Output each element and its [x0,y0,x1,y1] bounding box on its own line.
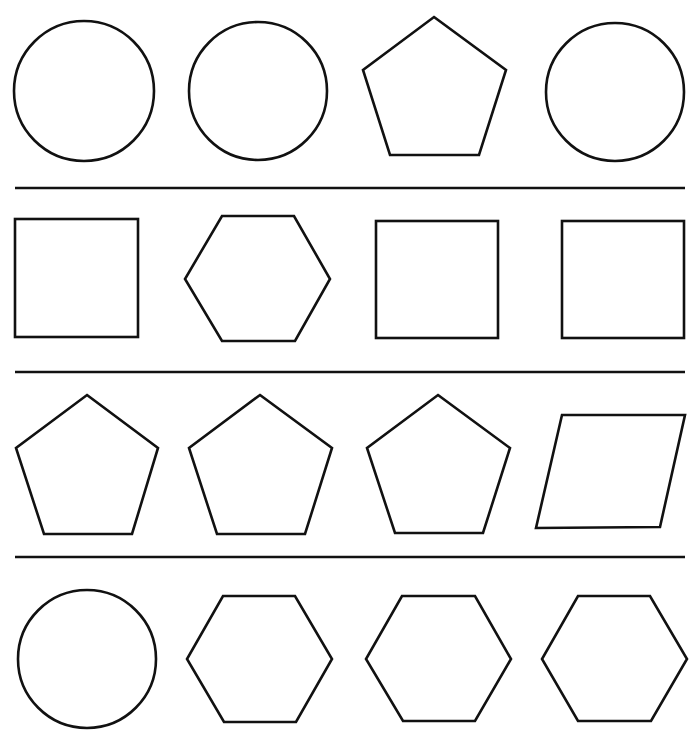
shapes-worksheet [0,0,693,737]
circle-shape [18,590,156,728]
circle-shape [14,21,154,161]
parallelogram-shape [536,415,685,528]
square-shape [562,221,684,338]
square-shape [376,221,498,338]
circle-shape [546,23,684,161]
circle-shape [189,22,327,160]
square-shape [15,219,138,337]
